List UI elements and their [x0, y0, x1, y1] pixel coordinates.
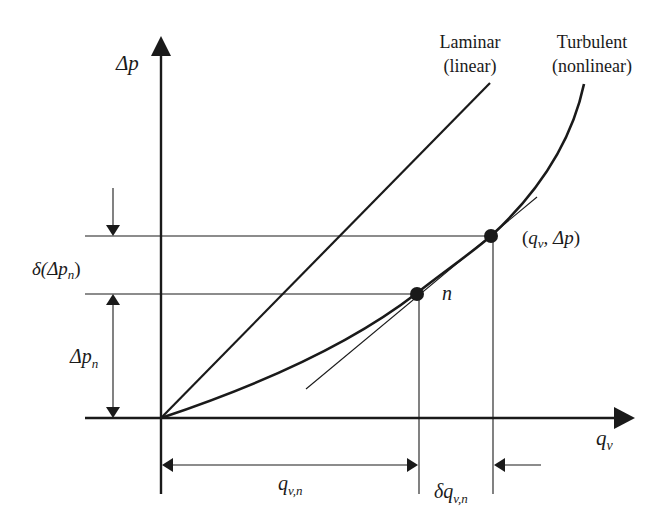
- right-arrowhead-icon: [407, 458, 418, 472]
- y-axis: [151, 36, 171, 494]
- left-arrowhead-icon: [494, 458, 505, 472]
- laminar-label: Laminar: [440, 32, 501, 52]
- turbulent-label: Turbulent: [557, 32, 627, 52]
- down-arrowhead-icon: [106, 225, 120, 236]
- delta-dp-n-label: δ(Δpn): [32, 258, 81, 282]
- x-axis-arrowhead-icon: [614, 407, 635, 429]
- delta-dp-n-dimension: [106, 188, 120, 236]
- left-arrowhead-icon: [162, 458, 173, 472]
- laminar-line: [161, 83, 490, 418]
- diagram-canvas: Δp qv Laminar (linear) Turbulent (nonlin…: [0, 0, 668, 526]
- laminar-sublabel: (linear): [444, 56, 497, 77]
- point-n-label: n: [442, 282, 452, 304]
- down-arrowhead-icon: [106, 407, 120, 418]
- q-vn-dimension: [162, 458, 418, 472]
- dp-n-label: Δpn: [69, 345, 98, 371]
- operating-point-label: (qv, Δp): [522, 227, 580, 251]
- q-vn-label: qv,n: [278, 472, 303, 498]
- up-arrowhead-icon: [106, 294, 120, 305]
- dp-n-dimension: [106, 294, 120, 418]
- turbulent-sublabel: (nonlinear): [552, 56, 632, 77]
- y-axis-arrowhead-icon: [151, 36, 171, 56]
- delta-q-vn-dimension: [494, 458, 541, 472]
- x-axis-label: qv: [596, 426, 614, 453]
- y-axis-label: Δp: [115, 51, 139, 75]
- delta-q-vn-label: δqv,n: [434, 480, 468, 506]
- point-n-marker: [410, 287, 424, 301]
- turbulent-curve: [161, 84, 584, 418]
- operating-point-marker: [484, 229, 498, 243]
- diagram-svg: Δp qv Laminar (linear) Turbulent (nonlin…: [0, 0, 668, 526]
